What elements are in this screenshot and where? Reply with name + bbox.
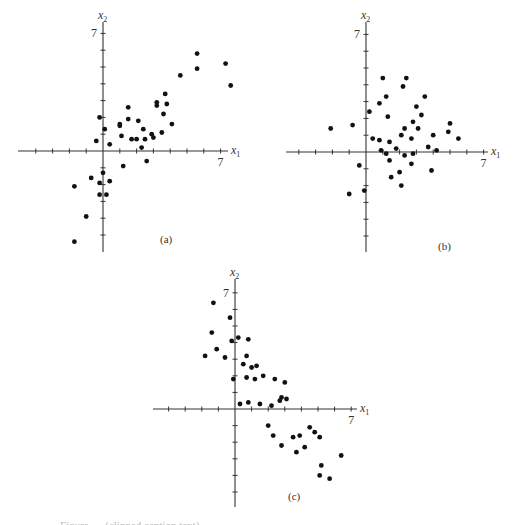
scatter-panel-a: 77x1x2(a) [18, 8, 240, 252]
data-point [312, 430, 317, 435]
y-axis-label: x2 [360, 8, 370, 24]
data-point [139, 145, 144, 150]
data-point [238, 402, 243, 407]
x-tick-label: 7 [218, 155, 224, 169]
data-point [307, 425, 312, 430]
data-point [228, 83, 233, 88]
data-point [399, 133, 404, 138]
data-point [357, 163, 362, 168]
y-axis-label: x2 [97, 8, 107, 24]
data-point [129, 137, 134, 142]
data-point [266, 423, 271, 428]
x-tick-label: 7 [481, 156, 487, 170]
data-point [401, 84, 406, 89]
data-point [72, 239, 77, 244]
data-point [102, 127, 107, 132]
figure-caption: Figure … (clipped caption text) [60, 515, 360, 525]
data-point [294, 450, 299, 455]
data-point [94, 139, 99, 144]
data-point [72, 184, 77, 189]
data-point [291, 435, 296, 440]
data-point [397, 170, 402, 175]
data-point [211, 300, 216, 305]
data-point [402, 126, 407, 131]
data-point [448, 121, 453, 126]
data-point [456, 136, 461, 141]
scatter-panel-c: 77x1x2(c) [153, 265, 369, 507]
data-point [394, 146, 399, 151]
data-point [97, 115, 102, 120]
data-point [377, 138, 382, 143]
data-point [350, 123, 355, 128]
data-point [409, 161, 414, 166]
data-point [258, 402, 263, 407]
x-axis-label: x1 [359, 401, 369, 417]
data-point [431, 133, 436, 138]
data-point [195, 66, 200, 71]
data-point [446, 129, 451, 134]
data-point [97, 181, 102, 186]
data-point [231, 377, 236, 382]
data-point [163, 92, 168, 97]
data-point [89, 176, 94, 181]
data-point [347, 192, 352, 197]
x-axis-label: x1 [490, 144, 500, 160]
data-point [261, 373, 266, 378]
data-point [154, 103, 159, 108]
data-point [419, 113, 424, 118]
data-point [380, 76, 385, 81]
data-point [284, 397, 289, 402]
x-tick-label: 7 [348, 413, 354, 427]
data-point [385, 114, 390, 119]
data-point [269, 403, 274, 408]
data-point [272, 377, 277, 382]
x-axis-label: x1 [230, 143, 240, 159]
data-point [414, 104, 419, 109]
data-point [244, 354, 249, 359]
y-axis-label: x2 [229, 265, 239, 281]
data-point [244, 375, 249, 380]
data-point [119, 134, 124, 139]
data-point [229, 339, 234, 344]
data-point [339, 453, 344, 458]
data-point [387, 140, 392, 145]
data-point [144, 159, 149, 164]
data-point [387, 158, 392, 163]
data-point [282, 380, 287, 385]
data-point [389, 175, 394, 180]
data-point [328, 126, 333, 131]
data-point [223, 355, 228, 360]
data-point [279, 443, 284, 448]
data-point [399, 183, 404, 188]
data-point [411, 119, 416, 124]
data-point [246, 400, 251, 405]
data-point [327, 476, 332, 481]
data-point [367, 109, 372, 114]
data-point [297, 433, 302, 438]
data-point [416, 126, 421, 131]
data-point [107, 142, 112, 147]
data-point [370, 136, 375, 141]
data-point [241, 362, 246, 367]
data-point [426, 145, 431, 150]
data-point [236, 335, 241, 340]
data-point [404, 76, 409, 81]
data-point [271, 433, 276, 438]
y-tick-label: 7 [91, 26, 97, 40]
data-point [97, 192, 102, 197]
data-point [143, 137, 148, 142]
data-point [384, 94, 389, 99]
y-tick-label: 7 [223, 286, 229, 300]
data-point [161, 112, 166, 117]
data-point [101, 170, 106, 175]
y-tick-label: 7 [354, 27, 360, 41]
data-point [302, 445, 307, 450]
data-point [195, 51, 200, 56]
data-point [178, 73, 183, 78]
data-point [402, 153, 407, 158]
data-point [159, 130, 164, 135]
data-point [228, 315, 233, 320]
data-point [434, 148, 439, 153]
data-point [384, 151, 389, 156]
data-point [253, 377, 258, 382]
